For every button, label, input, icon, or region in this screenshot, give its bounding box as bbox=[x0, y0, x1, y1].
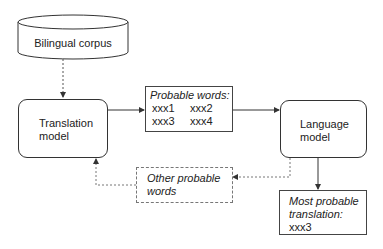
probable-words-box: Probable words: xxx1 xxx2 xxx3 xxx4 bbox=[145, 86, 233, 132]
probable-words-grid: xxx1 xxx2 xxx3 xxx4 bbox=[150, 102, 232, 128]
arrow-language-to-other bbox=[233, 158, 290, 177]
probable-word: xxx1 bbox=[152, 102, 190, 115]
translation-model-box: Translation model bbox=[18, 99, 108, 158]
translation-model-line2: model bbox=[39, 130, 107, 143]
probable-word: xxx3 bbox=[152, 115, 190, 128]
language-model-line2: model bbox=[300, 131, 366, 144]
language-model-box: Language model bbox=[280, 100, 367, 158]
other-words-line1: Other probable bbox=[147, 172, 232, 185]
other-words-line2: words bbox=[147, 185, 232, 198]
translation-model-line1: Translation bbox=[39, 117, 107, 130]
most-probable-line1: Most probable bbox=[289, 195, 366, 208]
bilingual-corpus-label: Bilingual corpus bbox=[18, 37, 128, 49]
probable-word: xxx4 bbox=[190, 115, 228, 128]
most-probable-value: xxx3 bbox=[289, 221, 366, 234]
other-probable-words-box: Other probable words bbox=[136, 167, 233, 203]
arrow-other-to-translation bbox=[96, 159, 136, 185]
language-model-line1: Language bbox=[300, 118, 366, 131]
most-probable-translation-box: Most probable translation: xxx3 bbox=[279, 190, 367, 235]
probable-words-title: Probable words: bbox=[150, 89, 232, 102]
most-probable-line2: translation: bbox=[289, 208, 366, 221]
probable-word: xxx2 bbox=[190, 102, 228, 115]
